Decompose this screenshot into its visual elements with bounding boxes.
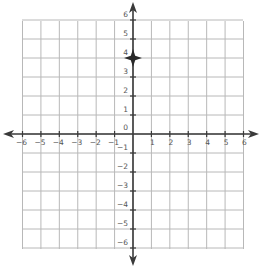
coordinate-plane: −6−5−4−3−2−1123456123456−1−2−3−4−5−60: [0, 0, 262, 268]
y-tick-label: 3: [123, 67, 128, 76]
x-tick-label: −2: [90, 138, 101, 147]
y-tick-label: 2: [123, 86, 128, 95]
y-tick-label: 4: [123, 48, 128, 57]
y-tick-label: −6: [117, 238, 128, 247]
x-tick-label: −3: [71, 138, 82, 147]
y-tick-label: 6: [123, 10, 128, 19]
y-tick-label: −5: [117, 219, 128, 228]
y-tick-label: −3: [117, 181, 128, 190]
x-tick-label: 6: [242, 138, 247, 147]
y-tick-label: −1: [117, 143, 128, 152]
tick-labels: −6−5−4−3−2−1123456123456−1−2−3−4−5−60: [16, 10, 247, 247]
x-tick-label: −5: [34, 138, 45, 147]
origin-label: 0: [123, 123, 128, 132]
x-tick-label: 5: [224, 138, 229, 147]
y-tick-label: −2: [117, 162, 128, 171]
x-tick-label: −4: [53, 138, 64, 147]
x-tick-label: 3: [187, 138, 192, 147]
y-tick-label: 5: [123, 29, 128, 38]
y-tick-label: −4: [117, 200, 128, 209]
x-tick-label: 2: [168, 138, 173, 147]
x-tick-label: 1: [150, 138, 155, 147]
y-tick-label: 1: [123, 105, 128, 114]
x-tick-label: −6: [16, 138, 27, 147]
x-tick-label: 4: [205, 138, 210, 147]
